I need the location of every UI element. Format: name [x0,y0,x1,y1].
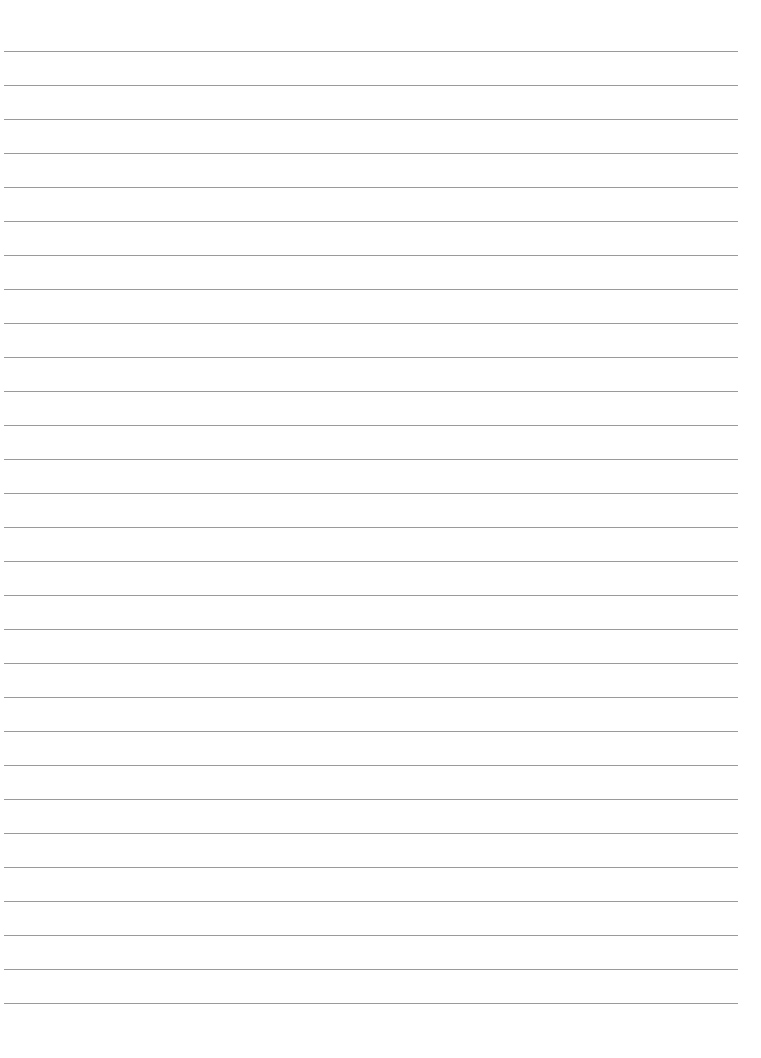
ruled-line [4,255,738,256]
ruled-line [4,663,738,664]
ruled-line [4,969,738,970]
ruled-line [4,119,738,120]
ruled-line [4,935,738,936]
ruled-line [4,765,738,766]
ruled-line [4,561,738,562]
ruled-line [4,731,738,732]
ruled-line [4,901,738,902]
ruled-line [4,833,738,834]
ruled-line [4,459,738,460]
ruled-line [4,867,738,868]
ruled-line [4,221,738,222]
ruled-line [4,697,738,698]
ruled-line [4,1003,738,1004]
ruled-line [4,85,738,86]
ruled-line [4,289,738,290]
ruled-line [4,493,738,494]
ruled-line [4,595,738,596]
ruled-line [4,51,738,52]
ruled-line [4,323,738,324]
ruled-line [4,153,738,154]
ruled-line [4,629,738,630]
lined-paper-page [0,0,761,1058]
ruled-line [4,391,738,392]
ruled-line [4,425,738,426]
ruled-line [4,527,738,528]
ruled-line [4,187,738,188]
ruled-line [4,799,738,800]
ruled-line [4,357,738,358]
